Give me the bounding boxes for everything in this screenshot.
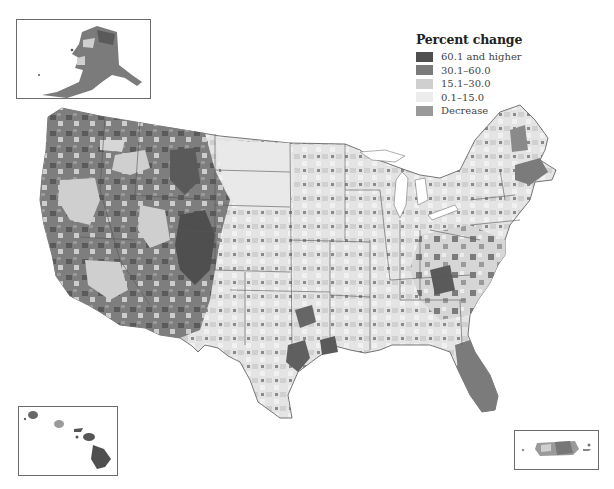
- legend-swatch: [416, 65, 433, 75]
- legend-label: 30.1–60.0: [441, 65, 491, 76]
- legend-label: Decrease: [441, 105, 488, 116]
- kauai-shape: [28, 411, 38, 419]
- legend: Percent change 60.1 and higher 30.1–60.0…: [416, 32, 522, 118]
- florida: [455, 340, 498, 412]
- legend-item-30-60: 30.1–60.0: [416, 64, 522, 78]
- legend-item-0-15: 0.1–15.0: [416, 91, 522, 105]
- big-island-shape: [91, 445, 111, 469]
- legend-swatch: [416, 106, 433, 116]
- legend-swatch: [416, 92, 433, 102]
- legend-label: 15.1–30.0: [441, 78, 491, 89]
- legend-swatch: [416, 52, 433, 62]
- legend-label: 60.1 and higher: [441, 51, 522, 62]
- legend-item-15-30: 15.1–30.0: [416, 77, 522, 91]
- alaska-inset: [16, 19, 151, 99]
- oahu-shape: [54, 420, 64, 428]
- legend-label: 0.1–15.0: [441, 92, 484, 103]
- alaska-shape: [42, 26, 142, 98]
- legend-swatch: [416, 79, 433, 89]
- maui-shape: [83, 433, 95, 441]
- legend-item-60-and-higher: 60.1 and higher: [416, 50, 522, 64]
- hawaii-inset: [18, 406, 118, 476]
- legend-title: Percent change: [416, 32, 522, 47]
- puerto-rico-inset: [514, 430, 599, 470]
- legend-item-decrease: Decrease: [416, 104, 522, 118]
